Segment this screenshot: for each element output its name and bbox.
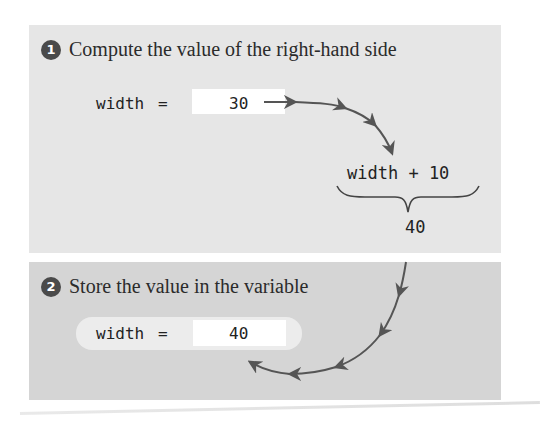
curly-brace-icon [337,186,479,212]
arrow-result-to-variable [250,262,406,374]
flow-arrows [0,0,540,429]
arrow-value-to-expression [264,102,392,153]
